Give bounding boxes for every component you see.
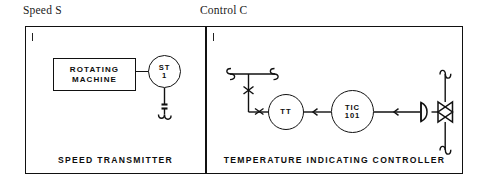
instrument-bubble-tic: TIC 101 [331, 90, 374, 133]
instrument-bubble-tt-tag: TT [280, 108, 291, 116]
caption-speed: Speed S [23, 4, 62, 16]
figure-canvas: Speed S Control C SPEED TRANSMITTER ROTA… [0, 0, 488, 189]
rotating-machine-label-line2: MACHINE [72, 75, 117, 84]
instrument-bubble-st: ST 1 [148, 55, 181, 88]
panel-speed-transmitter-label: SPEED TRANSMITTER [26, 155, 205, 165]
panel-corner-mark [32, 33, 33, 41]
caption-control: Control C [200, 4, 248, 16]
panel-corner-mark [213, 33, 214, 41]
rotating-machine-label-line1: ROTATING [70, 65, 119, 74]
instrument-bubble-tic-number: 101 [345, 112, 361, 120]
instrument-bubble-st-number: 1 [162, 72, 167, 80]
rotating-machine-box: ROTATING MACHINE [53, 58, 136, 91]
instrument-bubble-tt: TT [268, 94, 304, 130]
panel-temperature-indicating-controller-label: TEMPERATURE INDICATING CONTROLLER [207, 155, 462, 165]
panel-speed-transmitter: SPEED TRANSMITTER [25, 26, 206, 174]
